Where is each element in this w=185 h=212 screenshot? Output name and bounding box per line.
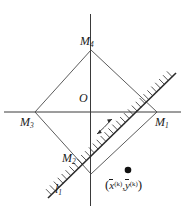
line-label-l1: l1 <box>55 183 62 196</box>
vertex-label-M3: M3 <box>20 116 34 129</box>
figure-canvas <box>0 0 185 212</box>
vertex-label-M2: M2 <box>62 152 76 165</box>
marked-point-dot <box>125 167 132 174</box>
rotation-arrow <box>97 119 112 134</box>
geometry-figure: M4 M1 M2 M3 O l1 (x(k),y(k)) <box>0 0 185 212</box>
origin-label: O <box>79 92 88 104</box>
vertex-label-M4: M4 <box>80 35 94 48</box>
point-coordinate-label: (x(k),y(k)) <box>105 178 142 191</box>
vertex-label-M1: M1 <box>155 116 169 129</box>
edge-M4-M1 <box>91 50 157 112</box>
